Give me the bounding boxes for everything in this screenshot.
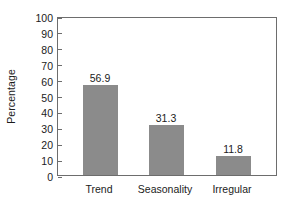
bar <box>216 156 251 175</box>
y-axis-tick-label: 30 <box>41 122 53 136</box>
y-axis-tick-label: 20 <box>41 138 53 152</box>
y-axis-tick-label: 70 <box>41 59 53 73</box>
y-axis-tick-mark <box>58 49 62 50</box>
y-axis-tick-label: 50 <box>41 91 53 105</box>
y-axis-tick-mark <box>58 33 62 34</box>
y-axis-tick-mark <box>58 97 62 98</box>
y-axis-tick-mark <box>58 177 62 178</box>
y-axis-tick-mark <box>58 129 62 130</box>
y-axis-title: Percentage <box>4 17 18 176</box>
bar-chart-figure: Percentage 0102030405060708090100 56.931… <box>0 0 293 212</box>
y-axis-tick-mark <box>58 65 62 66</box>
y-axis-tick-label: 40 <box>41 106 53 120</box>
y-axis-tick-label: 0 <box>47 170 53 184</box>
bar <box>83 85 118 175</box>
bar-value-label: 11.8 <box>196 142 271 156</box>
y-axis-tick-label: 10 <box>41 154 53 168</box>
bar-value-label: 31.3 <box>129 111 204 125</box>
y-axis-tick-mark <box>58 81 62 82</box>
x-axis-category-label: Irregular <box>187 182 277 196</box>
y-axis-tick-label: 90 <box>41 27 53 41</box>
bar-value-label: 56.9 <box>63 71 138 85</box>
y-axis-tick-label: 100 <box>35 11 53 25</box>
y-axis-tick-label: 80 <box>41 43 53 57</box>
y-axis-tick-mark <box>58 145 62 146</box>
y-axis-tick-label: 60 <box>41 75 53 89</box>
y-axis-tick-mark <box>58 113 62 114</box>
y-axis-tick-mark <box>58 161 62 162</box>
bar <box>149 125 184 175</box>
plot-area: 0102030405060708090100 56.931.311.8 <box>57 17 277 176</box>
y-axis-tick-mark <box>58 18 62 19</box>
